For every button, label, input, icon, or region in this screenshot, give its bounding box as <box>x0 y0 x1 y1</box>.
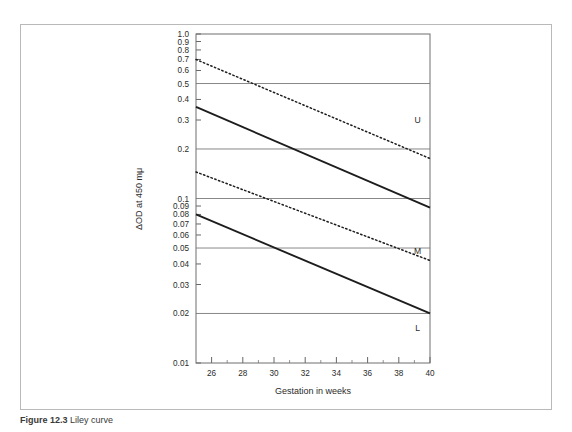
x-tick-label: 34 <box>332 369 342 378</box>
y-tick-label: 0.03 <box>173 281 189 290</box>
y-tick-label: 0.3 <box>178 116 190 125</box>
y-tick-label: 0.02 <box>173 309 189 318</box>
y-axis-ticks: 1.00.90.80.70.60.50.40.30.20.10.090.080.… <box>173 30 201 368</box>
liley-curve-chart: 1.00.90.80.70.60.50.40.30.20.10.090.080.… <box>0 0 572 432</box>
data-series <box>196 59 430 313</box>
zone-label-u: U <box>414 115 420 125</box>
series-line-zone-upper-solid <box>196 107 430 208</box>
x-axis-title: Gestation in weeks <box>275 386 352 396</box>
figure-caption-body: Liley curve <box>70 415 113 425</box>
zone-label-l: L <box>415 323 420 333</box>
y-tick-label: 0.01 <box>173 359 189 368</box>
y-tick-label: 0.04 <box>173 260 189 269</box>
y-axis-title: ΔOD at 450 mμ <box>134 168 144 230</box>
x-tick-label: 26 <box>207 369 217 378</box>
x-tick-label: 28 <box>238 369 248 378</box>
series-line-upper-dotted <box>196 59 430 158</box>
y-tick-label: 0.8 <box>178 46 190 55</box>
x-tick-label: 30 <box>269 369 279 378</box>
series-line-zone-lower-solid <box>196 214 430 313</box>
y-tick-label: 0.4 <box>178 95 190 104</box>
y-tick-label: 0.6 <box>178 66 190 75</box>
zone-labels: UML <box>414 115 421 333</box>
figure-caption-number: Figure 12.3 <box>20 415 68 425</box>
y-tick-label: 0.07 <box>173 220 189 229</box>
y-tick-label: 0.2 <box>178 145 190 154</box>
x-tick-label: 32 <box>301 369 311 378</box>
y-tick-label: 0.08 <box>173 210 189 219</box>
y-tick-label: 0.05 <box>173 244 189 253</box>
gridlines <box>196 84 430 314</box>
y-tick-label: 0.5 <box>178 80 190 89</box>
figure-caption: Figure 12.3 Liley curve <box>20 414 540 426</box>
chart-container: 1.00.90.80.70.60.50.40.30.20.10.090.080.… <box>0 0 572 432</box>
y-tick-label: 0.7 <box>178 55 190 64</box>
x-tick-label: 36 <box>363 369 373 378</box>
x-tick-label: 40 <box>425 369 435 378</box>
series-line-mid-dotted <box>196 172 430 261</box>
x-axis-ticks: 2628303234363840 <box>207 357 435 378</box>
zone-label-m: M <box>414 246 421 256</box>
x-tick-label: 38 <box>394 369 404 378</box>
y-tick-label: 0.06 <box>173 231 189 240</box>
